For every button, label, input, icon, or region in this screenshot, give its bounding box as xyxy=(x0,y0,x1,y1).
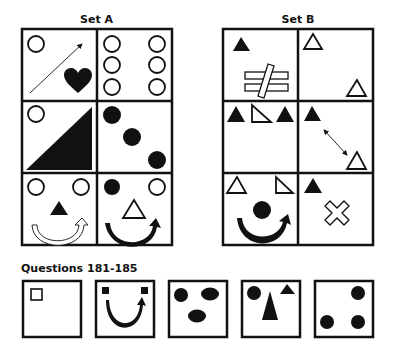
set-b-cell-1-2 xyxy=(304,34,366,96)
filled-triangle-icon xyxy=(304,106,321,121)
filled-circle-icon xyxy=(123,128,141,146)
hollow-circle-icon xyxy=(28,36,44,52)
hollow-triangle-icon xyxy=(304,34,322,49)
filled-circle-icon xyxy=(320,315,334,329)
hollow-triangle-icon xyxy=(347,80,366,96)
hollow-right-triangle-icon xyxy=(276,177,293,193)
hollow-circle-icon xyxy=(73,179,89,195)
filled-circle-icon xyxy=(103,106,121,124)
hollow-circle-icon xyxy=(149,79,165,95)
hollow-circle-icon xyxy=(28,106,44,122)
set-a-cell-3-2 xyxy=(104,179,165,247)
hollow-circle-icon xyxy=(28,179,44,195)
filled-circle-icon xyxy=(104,179,120,195)
set-a-cell-2-1 xyxy=(26,106,92,170)
filled-ellipse-icon xyxy=(201,288,219,301)
filled-curved-arrow-icon xyxy=(105,218,161,247)
filled-circle-icon xyxy=(253,201,271,219)
filled-triangle-icon xyxy=(304,178,322,193)
hollow-triangle-icon xyxy=(227,177,246,193)
question-184[interactable] xyxy=(242,281,300,337)
filled-circle-icon xyxy=(174,288,188,302)
question-185[interactable] xyxy=(315,281,373,337)
question-182[interactable] xyxy=(96,281,154,337)
double-arrow-icon xyxy=(324,130,347,155)
set-b-cell-3-1 xyxy=(227,177,293,243)
set-b-cell-2-1 xyxy=(227,105,294,122)
hollow-cross-icon xyxy=(325,201,349,225)
not-equal-icon xyxy=(245,64,288,98)
hollow-circle-icon xyxy=(104,57,120,73)
filled-right-triangle-icon xyxy=(26,107,92,170)
set-b-cell-3-2 xyxy=(304,178,349,225)
filled-triangle-icon xyxy=(276,106,294,122)
filled-square-icon xyxy=(141,287,148,294)
hollow-circle-icon xyxy=(149,179,165,195)
hollow-triangle-icon xyxy=(123,200,145,218)
hollow-triangle-icon xyxy=(347,152,366,169)
filled-ellipse-icon xyxy=(188,310,206,323)
filled-triangle-icon xyxy=(50,201,68,215)
set-a-cell-2-2 xyxy=(103,106,166,169)
filled-triangle-icon xyxy=(227,106,245,122)
hollow-circle-icon xyxy=(104,79,120,95)
set-b-grid xyxy=(223,29,373,245)
filled-triangle-icon xyxy=(233,37,250,51)
filled-circle-icon xyxy=(351,286,365,300)
hollow-circle-icon xyxy=(149,36,165,52)
heart-icon xyxy=(64,68,92,93)
hollow-circle-icon xyxy=(149,57,165,73)
hollow-right-triangle-icon xyxy=(252,105,271,122)
set-a-cell-1-1 xyxy=(28,36,92,93)
question-181[interactable] xyxy=(23,281,81,337)
hollow-curved-arrow-icon xyxy=(32,218,88,245)
filled-square-icon xyxy=(102,287,109,294)
filled-circle-icon xyxy=(247,286,261,300)
set-a-cell-1-2 xyxy=(104,36,165,95)
question-183[interactable] xyxy=(169,281,227,337)
set-a-cell-3-1 xyxy=(28,179,89,245)
hollow-circle-icon xyxy=(104,36,120,52)
filled-circle-icon xyxy=(148,151,166,169)
set-b-cell-2-2 xyxy=(304,106,366,169)
filled-circle-icon xyxy=(351,315,365,329)
set-b-cell-1-1 xyxy=(233,37,288,98)
